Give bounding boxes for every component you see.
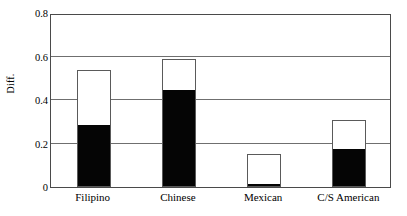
- y-axis-tick-label: 0.6: [18, 52, 48, 63]
- y-axis-title: Diff.: [5, 60, 16, 108]
- y-axis-tick-label: 0: [18, 183, 48, 194]
- x-axis-tick-label: Filipino: [75, 191, 110, 203]
- bar-segment-filled: [248, 184, 280, 186]
- bar: [332, 120, 366, 187]
- y-axis-tick-label: 0.4: [18, 96, 48, 107]
- bar: [162, 59, 196, 187]
- bar-chart: Diff. 0.80.60.40.20 FilipinoChineseMexic…: [0, 0, 407, 216]
- bar-segment-filled: [78, 125, 110, 186]
- x-axis-tick-label: C/S American: [317, 191, 379, 203]
- x-axis-tick-label: Chinese: [160, 191, 195, 203]
- bar-segment-filled: [163, 90, 195, 186]
- bar: [247, 154, 281, 187]
- bars-layer: [51, 15, 390, 187]
- y-axis-tick-label: 0.8: [18, 9, 48, 20]
- plot-area: [50, 14, 391, 188]
- y-axis-tick-label: 0.2: [18, 139, 48, 150]
- x-axis-tick-label: Mexican: [244, 191, 282, 203]
- bar-segment-filled: [333, 149, 365, 186]
- bar: [77, 70, 111, 187]
